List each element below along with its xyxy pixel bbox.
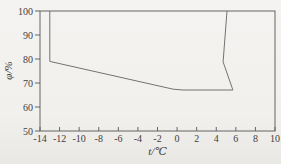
region-boundary bbox=[50, 11, 233, 90]
x-tick-label: 2 bbox=[194, 133, 199, 144]
x-tick-label: -14 bbox=[33, 133, 46, 144]
x-tick-label: -2 bbox=[153, 133, 161, 144]
x-tick-label: -8 bbox=[95, 133, 103, 144]
humidity-temperature-chart: -14-12-10-8-6-4-202468105060708090100 bbox=[0, 0, 281, 164]
y-tick-label: 50 bbox=[23, 126, 33, 137]
x-tick-label: -4 bbox=[134, 133, 142, 144]
x-tick-label: 6 bbox=[233, 133, 238, 144]
plot-frame bbox=[40, 11, 275, 131]
y-tick-label: 90 bbox=[23, 30, 33, 41]
x-tick-label: -6 bbox=[114, 133, 122, 144]
y-axis-title: φ/% bbox=[2, 41, 15, 101]
y-tick-label: 70 bbox=[23, 78, 33, 89]
x-tick-label: -10 bbox=[72, 133, 85, 144]
y-tick-label: 80 bbox=[23, 54, 33, 65]
x-tick-label: -12 bbox=[53, 133, 66, 144]
x-tick-label: 0 bbox=[175, 133, 180, 144]
x-tick-label: 10 bbox=[270, 133, 280, 144]
y-tick-label: 60 bbox=[23, 102, 33, 113]
x-tick-label: 8 bbox=[253, 133, 258, 144]
humidity-temperature-figure: -14-12-10-8-6-4-202468105060708090100 t/… bbox=[0, 0, 281, 164]
y-tick-label: 100 bbox=[18, 6, 33, 17]
x-tick-label: 4 bbox=[214, 133, 219, 144]
x-axis-title: t/℃ bbox=[40, 145, 275, 158]
